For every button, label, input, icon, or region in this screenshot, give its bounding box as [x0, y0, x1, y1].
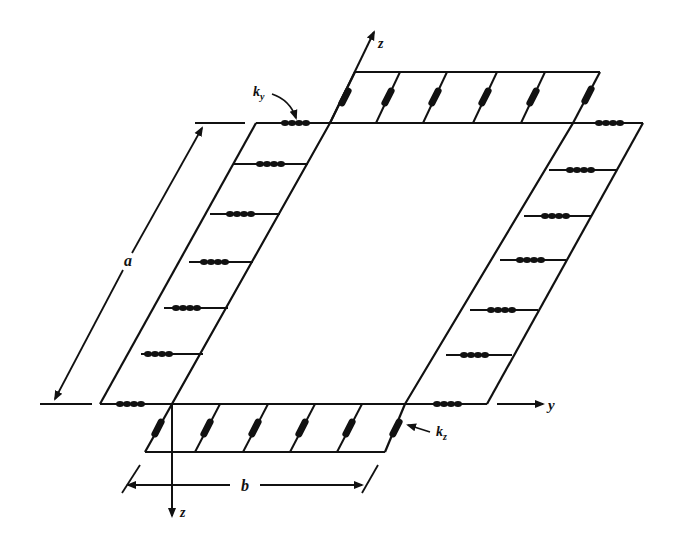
- dim-a-label: a: [124, 252, 132, 269]
- z-axis-bottom-label: z: [179, 505, 186, 520]
- dimension-b: [122, 465, 378, 493]
- top-spring-coils: [337, 85, 595, 108]
- z-axis-up-arrow: [330, 32, 374, 123]
- dim-b-label: b: [241, 477, 249, 494]
- y-axis-label: y: [546, 397, 555, 413]
- top-edge-springs: [376, 72, 545, 123]
- z-axis-top-label: z: [377, 36, 384, 51]
- plate-spring-diagram: a b z z y ky kz: [0, 0, 675, 547]
- ky-leader-arrow: [272, 94, 296, 118]
- kz-label: kz: [436, 424, 447, 442]
- right-edge-springs: [446, 170, 617, 355]
- bottom-edge-springs: [195, 404, 362, 452]
- ky-label: ky: [253, 84, 265, 102]
- plate-outline: [100, 72, 643, 452]
- right-spring-coils: [433, 120, 624, 407]
- left-spring-coils: [116, 120, 310, 407]
- kz-leader-arrow: [408, 425, 430, 432]
- bottom-spring-coils: [150, 418, 403, 439]
